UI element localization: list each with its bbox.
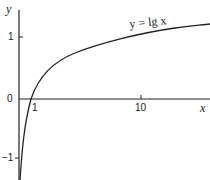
y-axis-label: y [6,3,11,15]
y-tick-label-1: 1 [8,32,14,42]
x-axis-label: x [200,102,205,114]
x-tick-label-10: 10 [135,103,146,113]
x-tick-label-1: 1 [32,103,38,113]
plot-canvas [0,0,210,180]
curve-annotation: y = lg x [129,14,167,30]
log-curve [20,24,210,180]
origin-label: 0 [7,94,13,104]
y-tick-label-neg1: −1 [2,153,13,163]
